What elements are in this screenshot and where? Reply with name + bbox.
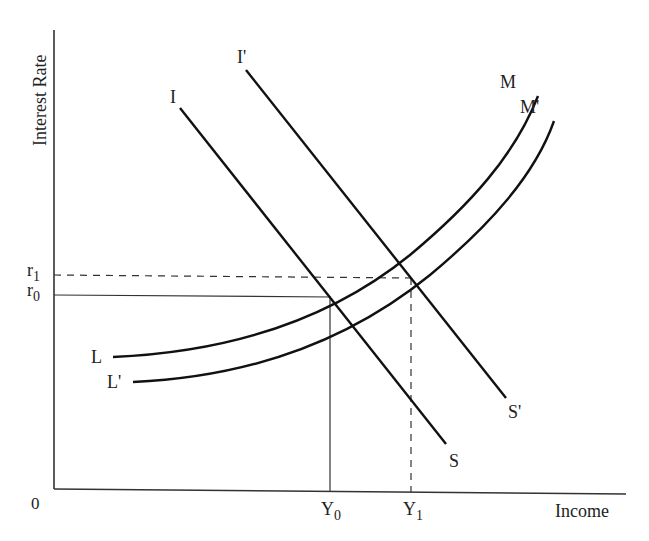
is-prime-curve [246,70,506,398]
r0-sub: 0 [33,289,40,304]
is-lm-diagram: Interest Rate 0 I I' S S' L L' M M' r1 r… [0,0,649,541]
label-S: S [449,451,459,471]
label-L: L [91,347,102,367]
origin-label: 0 [31,494,40,513]
y-axis-label: Interest Rate [30,55,50,146]
r1-guide [54,275,411,278]
y1-sub: 1 [416,508,423,523]
label-M-prime: M' [520,97,539,117]
y1-label: Y1 [403,499,423,523]
label-S-prime: S' [508,402,521,422]
x-axis-label: Income [555,501,609,521]
y1-base: Y [403,499,416,519]
r1-sub: 1 [33,269,40,284]
label-I-prime: I' [237,47,246,67]
y0-label: Y0 [321,499,341,523]
lm-prime-curve [133,121,554,382]
is-curve [180,108,446,444]
lm-curve [113,96,538,357]
label-I: I [170,87,176,107]
label-L-prime: L' [107,372,121,392]
label-M: M [500,72,516,92]
x-axis [54,489,626,494]
y0-base: Y [321,499,334,519]
y0-sub: 0 [334,508,341,523]
r0-guide [54,295,331,297]
